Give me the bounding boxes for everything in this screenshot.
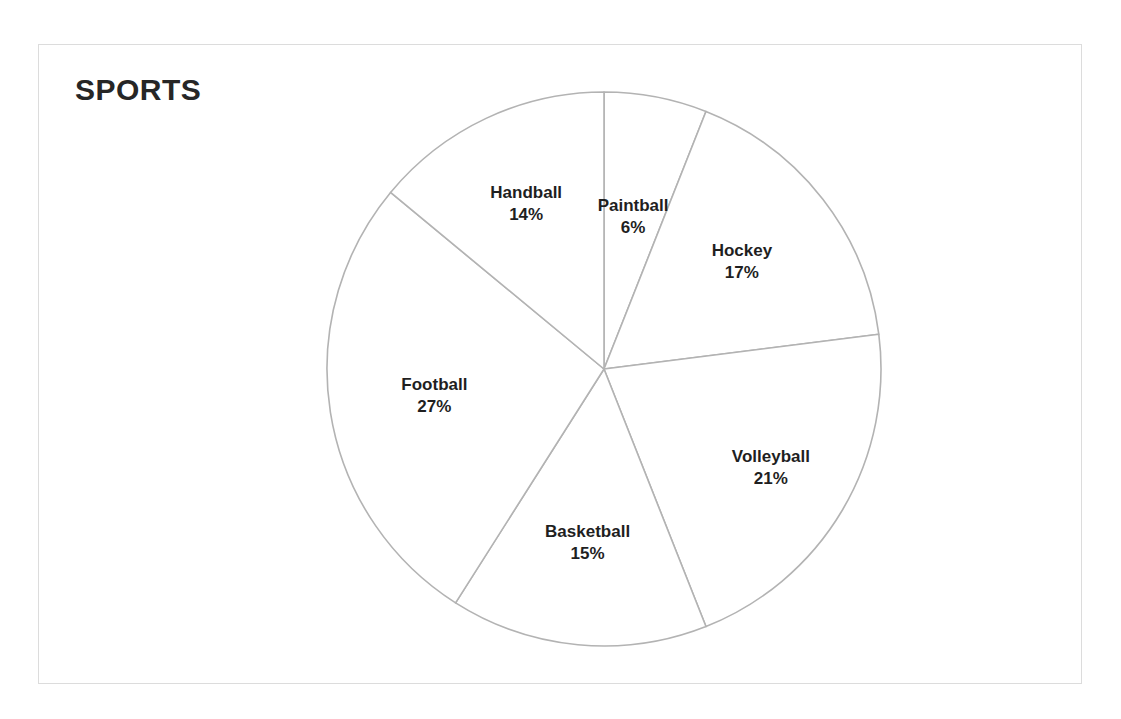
chart-frame: SPORTS Paintball 6% Hockey 17% Volleybal… (38, 44, 1082, 684)
pie-label-basketball-value: 15% (545, 543, 630, 565)
pie-chart[interactable] (39, 45, 1083, 685)
pie-label-paintball: Paintball 6% (598, 195, 669, 239)
pie-label-basketball: Basketball 15% (545, 521, 630, 565)
pie-label-volleyball-value: 21% (732, 468, 810, 490)
pie-label-volleyball-name: Volleyball (732, 446, 810, 468)
pie-label-hockey-name: Hockey (712, 240, 772, 262)
pie-label-handball: Handball 14% (490, 182, 562, 226)
pie-label-handball-name: Handball (490, 182, 562, 204)
pie-label-paintball-value: 6% (598, 217, 669, 239)
pie-label-basketball-name: Basketball (545, 521, 630, 543)
pie-label-football: Football 27% (401, 374, 467, 418)
pie-label-paintball-name: Paintball (598, 195, 669, 217)
pie-label-volleyball: Volleyball 21% (732, 446, 810, 490)
pie-label-hockey: Hockey 17% (712, 240, 772, 284)
pie-label-hockey-value: 17% (712, 262, 772, 284)
pie-label-football-name: Football (401, 374, 467, 396)
pie-label-handball-value: 14% (490, 204, 562, 226)
pie-label-football-value: 27% (401, 396, 467, 418)
